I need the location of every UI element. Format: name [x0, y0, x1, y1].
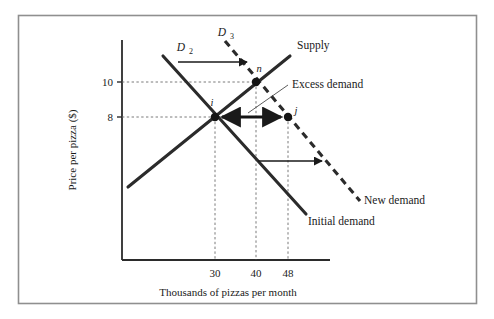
point-n-marker — [252, 78, 260, 86]
figure-container: 10 8 30 40 48 Thousands of pizzas per mo… — [0, 0, 494, 319]
supply-label: Supply — [297, 39, 330, 52]
point-j-marker — [284, 113, 292, 121]
xtick-label-40: 40 — [251, 267, 263, 279]
xtick-label-30: 30 — [210, 267, 222, 279]
ytick-label-8: 8 — [108, 111, 114, 123]
point-i-marker — [211, 113, 219, 121]
point-i-label: i — [211, 97, 214, 108]
d2-label: D — [176, 41, 186, 53]
point-n-label: n — [256, 63, 261, 74]
ytick-label-10: 10 — [102, 76, 114, 88]
y-axis-title: Price per pizza ($) — [66, 109, 79, 190]
d3-label: D — [217, 26, 227, 38]
d3-subscript: 3 — [230, 32, 234, 41]
new-demand-label: New demand — [364, 194, 425, 206]
d2-subscript: 2 — [189, 47, 193, 56]
initial-demand-label: Initial demand — [308, 215, 375, 227]
xtick-label-48: 48 — [283, 267, 295, 279]
x-axis-title: Thousands of pizzas per month — [159, 286, 297, 298]
excess-demand-label: Excess demand — [292, 78, 363, 90]
supply-demand-chart: 10 8 30 40 48 Thousands of pizzas per mo… — [0, 0, 494, 319]
